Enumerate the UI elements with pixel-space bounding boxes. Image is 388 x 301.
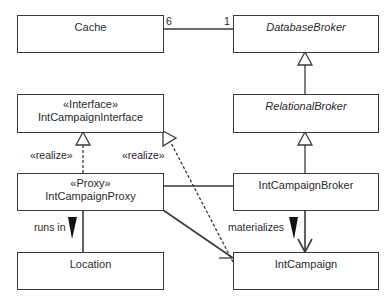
- realize-label-right: «realize»: [122, 149, 165, 161]
- class-name: IntCampaignInterface: [18, 111, 163, 124]
- class-name: Location: [18, 258, 163, 271]
- class-intcampaign[interactable]: IntCampaign: [233, 252, 379, 290]
- realization-arrowhead-icon: [76, 132, 90, 145]
- class-relationalbroker[interactable]: RelationalBroker: [233, 94, 379, 133]
- class-location[interactable]: Location: [17, 252, 164, 290]
- multiplicity-databasebroker: 1: [224, 15, 230, 27]
- class-name: RelationalBroker: [234, 100, 378, 113]
- association-proxy-campaign: [163, 210, 233, 258]
- class-intcampaigninterface[interactable]: «Interface» IntCampaignInterface: [17, 94, 164, 133]
- realization-arrowhead-icon: [163, 131, 176, 146]
- class-cache[interactable]: Cache: [17, 15, 164, 53]
- generalization-arrowhead-icon: [298, 52, 312, 65]
- class-name: IntCampaignProxy: [18, 190, 163, 203]
- multiplicity-cache: 6: [166, 15, 172, 27]
- class-stereotype: «Interface»: [18, 98, 163, 111]
- runs-in-label: runs in: [34, 221, 66, 233]
- class-databasebroker[interactable]: DatabaseBroker: [233, 15, 379, 53]
- class-name: IntCampaignBroker: [234, 179, 378, 192]
- class-stereotype: «Proxy»: [18, 177, 163, 190]
- materializes-label: materializes: [228, 221, 284, 233]
- class-intcampaignproxy[interactable]: «Proxy» IntCampaignProxy: [17, 173, 164, 211]
- materializes-direction-icon: [289, 217, 298, 239]
- class-name: DatabaseBroker: [234, 21, 378, 34]
- class-intcampaignbroker[interactable]: IntCampaignBroker: [233, 173, 379, 211]
- runs-in-direction-icon: [68, 217, 77, 239]
- class-name: Cache: [18, 21, 163, 34]
- generalization-arrowhead-icon: [298, 132, 312, 145]
- realize-label-left: «realize»: [30, 149, 73, 161]
- class-name: IntCampaign: [234, 258, 378, 271]
- realization-campaign-interface: [170, 141, 233, 262]
